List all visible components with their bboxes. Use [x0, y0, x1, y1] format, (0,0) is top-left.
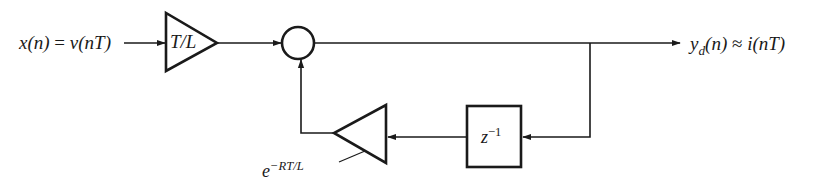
- output-label-args: (n): [705, 33, 727, 54]
- feedback-branch-line: [523, 43, 590, 137]
- feedback-gain-label: e−RT/L: [262, 160, 304, 180]
- input-label-equals: =: [54, 32, 65, 53]
- input-label-lhs: x(n): [19, 32, 50, 53]
- feedback-gain-triangle: [334, 105, 386, 163]
- summing-junction-circle: [282, 27, 314, 59]
- feedback-gain-label-exponent: −RT/L: [270, 159, 304, 173]
- feedback-gain-leader-line: [339, 151, 365, 162]
- forward-gain-label: T/L: [170, 32, 196, 51]
- block-diagram-canvas: [0, 0, 821, 187]
- delay-label-exponent: −1: [488, 125, 501, 139]
- input-label-rhs: v(nT): [70, 32, 111, 53]
- output-label-rhs: i(nT): [747, 33, 785, 54]
- feedback-return-arrow: [301, 60, 334, 133]
- delay-label: z−1: [481, 126, 501, 146]
- delay-label-base: z: [481, 127, 488, 147]
- input-label: x(n) = v(nT): [19, 33, 111, 52]
- output-label: yd(n) ≈ i(nT): [690, 34, 785, 57]
- output-label-approx: ≈: [732, 33, 742, 54]
- feedback-gain-label-base: e: [262, 161, 270, 181]
